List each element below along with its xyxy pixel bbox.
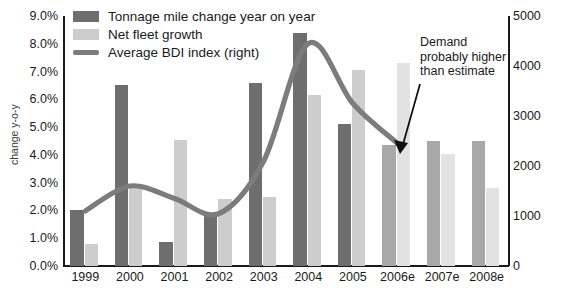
bar-fleet: [397, 63, 410, 266]
chart-legend: Tonnage mile change year on year Net fle…: [73, 8, 315, 62]
x-axis-tick-label: 2006e: [375, 270, 420, 284]
x-axis-tick-label: 2004: [286, 270, 331, 284]
annotation-line-3: than estimate: [420, 64, 512, 79]
legend-label-bdi: Average BDI index (right): [108, 45, 259, 60]
legend-label-fleet: Net fleet growth: [108, 27, 203, 42]
annotation-line-2: probably higher: [420, 50, 512, 65]
y-axis-right-tick: 3000: [513, 109, 563, 123]
y-axis-right-tick: 5000: [513, 9, 563, 23]
y-axis-left-tick: 0.0%: [14, 259, 58, 273]
legend-item-bdi: Average BDI index (right): [73, 44, 315, 61]
x-axis-tick-label: 2001: [152, 270, 197, 284]
x-axis-tick-label: 2008e: [464, 270, 509, 284]
y-axis-left-tick: 6.0%: [14, 92, 58, 106]
legend-item-tonnage: Tonnage mile change year on year: [73, 8, 315, 25]
y-axis-left-tick: 2.0%: [14, 203, 58, 217]
bar-fleet: [85, 244, 98, 266]
x-axis-tick-label: 2002: [197, 270, 242, 284]
y-axis-left-tick: 9.0%: [14, 9, 58, 23]
annotation-demand: Demand probably higher than estimate: [420, 35, 512, 79]
bar-tonnage: [472, 141, 485, 266]
legend-swatch-light-icon: [73, 29, 99, 40]
annotation-line-1: Demand: [420, 35, 512, 50]
y-axis-left-tick: 8.0%: [14, 37, 58, 51]
y-axis-right-tick: 1000: [513, 209, 563, 223]
bar-tonnage: [204, 213, 217, 266]
bar-tonnage: [159, 242, 172, 266]
y-axis-left-tick: 5.0%: [14, 120, 58, 134]
bar-fleet: [263, 197, 276, 266]
bar-fleet: [441, 154, 454, 267]
x-axis-tick-label: 2007e: [420, 270, 465, 284]
bar-tonnage: [427, 141, 440, 266]
bar-fleet: [129, 188, 142, 266]
bar-fleet: [218, 199, 231, 266]
bar-fleet: [308, 95, 321, 266]
bar-tonnage: [115, 85, 128, 266]
bar-tonnage: [70, 210, 83, 266]
bar-fleet: [174, 140, 187, 266]
bar-tonnage: [249, 83, 262, 266]
chart-container: change y-o-y 0.0%1.0%2.0%3.0%4.0%5.0%6.0…: [0, 0, 571, 302]
legend-item-fleet: Net fleet growth: [73, 26, 315, 43]
x-axis-tick-label: 2003: [241, 270, 286, 284]
legend-label-tonnage: Tonnage mile change year on year: [108, 9, 315, 24]
x-axis-tick-label: 2005: [331, 270, 376, 284]
bar-tonnage: [382, 145, 395, 266]
bar-fleet: [486, 188, 499, 266]
x-axis-tick-label: 1999: [63, 270, 108, 284]
y-axis-right-tick: 4000: [513, 59, 563, 73]
bar-tonnage: [338, 124, 351, 266]
y-axis-left-tick: 4.0%: [14, 148, 58, 162]
y-axis-left-tick: 7.0%: [14, 65, 58, 79]
y-axis-left-title: change y-o-y: [2, 89, 14, 105]
y-axis-left-tick: 3.0%: [14, 176, 58, 190]
legend-swatch-dark-icon: [73, 11, 99, 22]
y-axis-left-ticks: 0.0%1.0%2.0%3.0%4.0%5.0%6.0%7.0%8.0%9.0%: [14, 0, 58, 302]
bar-tonnage: [293, 33, 306, 266]
legend-line-icon: [73, 50, 99, 55]
y-axis-left-tick: 1.0%: [14, 231, 58, 245]
bar-fleet: [352, 70, 365, 266]
y-axis-right-ticks: 010002000300040005000: [513, 0, 563, 302]
x-axis-tick-label: 2000: [108, 270, 153, 284]
y-axis-right-tick: 0: [513, 259, 563, 273]
y-axis-right-tick: 2000: [513, 159, 563, 173]
